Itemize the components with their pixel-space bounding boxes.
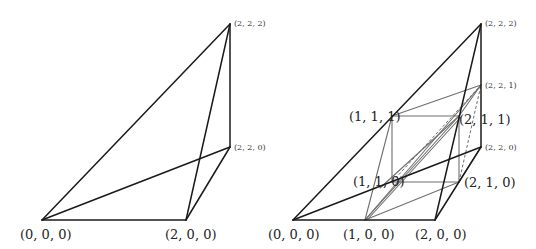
label-111: (1, 1, 1) (349, 109, 401, 124)
label-220: (2, 2, 0) (234, 143, 266, 152)
label-110: (1, 1, 0) (353, 174, 405, 189)
edge-200-220 (186, 147, 230, 220)
label-222: (2, 2, 2) (485, 19, 517, 28)
label-220: (2, 2, 0) (485, 143, 517, 152)
label-200: (2, 0, 0) (415, 227, 467, 242)
label-200: (2, 0, 0) (165, 227, 217, 242)
label-222: (2, 2, 2) (234, 19, 266, 28)
edge-200-222 (186, 24, 230, 220)
diagram-canvas: (0, 0, 0) (2, 0, 0) (2, 2, 2) (2, 2, 0) … (0, 0, 536, 249)
label-100: (1, 0, 0) (343, 227, 395, 242)
label-000: (0, 0, 0) (20, 227, 72, 242)
right-inner-edges (365, 85, 481, 220)
left-tetrahedron (42, 24, 230, 220)
label-210: (2, 1, 0) (464, 175, 516, 190)
label-221: (2, 2, 1) (485, 81, 517, 90)
edge-000-220 (42, 147, 230, 220)
edge-000-222 (42, 24, 230, 220)
label-211: (2, 1, 1) (459, 112, 511, 127)
label-000: (0, 0, 0) (268, 227, 320, 242)
